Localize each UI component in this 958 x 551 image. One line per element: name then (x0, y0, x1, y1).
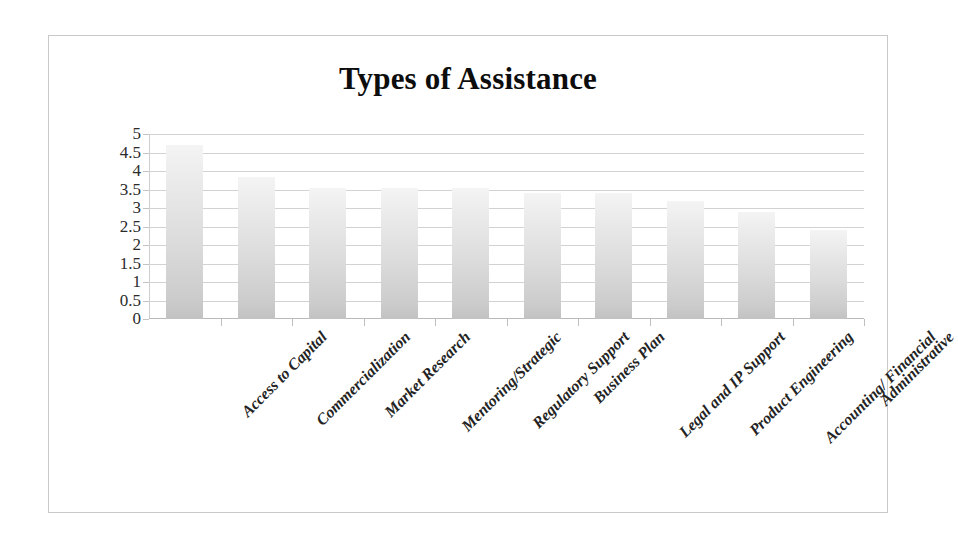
gridline (149, 171, 864, 172)
y-tick-label: 0 (133, 309, 142, 329)
bar-9[interactable] (738, 212, 775, 319)
x-tick-mark (650, 319, 651, 326)
bar-8[interactable] (667, 201, 704, 319)
x-tick-mark (793, 319, 794, 326)
gridline (149, 134, 864, 135)
y-tick-label: 3.5 (120, 180, 141, 200)
y-tick-label: 2 (133, 235, 142, 255)
gridline (149, 153, 864, 154)
y-tick-label: 1 (133, 272, 142, 292)
y-tick-mark (143, 171, 149, 172)
x-tick-mark (435, 319, 436, 326)
y-tick-label: 1.5 (120, 254, 141, 274)
y-tick-mark (143, 208, 149, 209)
x-axis-label: Access to Capital (238, 328, 331, 421)
bar-2[interactable] (238, 177, 275, 319)
chart-title: Types of Assistance (49, 61, 887, 97)
bar-10[interactable] (810, 230, 847, 319)
y-tick-label: 4 (133, 161, 142, 181)
y-tick-mark (143, 227, 149, 228)
y-tick-label: 0.5 (120, 291, 141, 311)
bar-4[interactable] (381, 188, 418, 319)
y-tick-mark (143, 153, 149, 154)
bar-5[interactable] (452, 188, 489, 319)
bar-7[interactable] (595, 193, 632, 319)
bar-3[interactable] (309, 188, 346, 319)
y-tick-mark (143, 319, 149, 320)
x-tick-mark (507, 319, 508, 326)
y-tick-mark (143, 190, 149, 191)
y-tick-mark (143, 134, 149, 135)
y-tick-label: 4.5 (120, 143, 141, 163)
x-tick-mark (864, 319, 865, 326)
y-tick-label: 2.5 (120, 217, 141, 237)
plot-area: 54.543.532.521.510.50 Access to CapitalC… (149, 134, 864, 319)
y-tick-mark (143, 282, 149, 283)
x-tick-mark (578, 319, 579, 326)
x-tick-mark (292, 319, 293, 326)
y-tick-mark (143, 301, 149, 302)
y-tick-label: 5 (133, 124, 142, 144)
bar-1[interactable] (166, 145, 203, 319)
y-tick-mark (143, 245, 149, 246)
y-tick-label: 3 (133, 198, 142, 218)
x-tick-mark (221, 319, 222, 326)
x-tick-mark (721, 319, 722, 326)
x-tick-mark (364, 319, 365, 326)
bar-6[interactable] (524, 193, 561, 319)
chart-figure-frame: Types of Assistance 54.543.532.521.510.5… (48, 35, 888, 513)
y-tick-mark (143, 264, 149, 265)
